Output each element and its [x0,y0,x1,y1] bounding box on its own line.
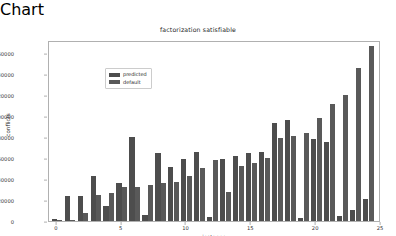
x-tick-mark [185,222,186,225]
bar-predicted-12 [207,217,212,221]
x-tick-mark [250,222,251,225]
bar-predicted-17 [272,123,277,221]
bars-container [49,42,379,221]
bar-default-2 [83,213,88,221]
bar-default-13 [226,192,231,221]
bar-default-4 [109,193,114,221]
chart-legend: predicted default [105,68,152,89]
x-tick-label: 25 [377,225,384,231]
y-tick-mark [44,116,47,117]
y-tick-mark [44,95,47,96]
bar-predicted-2 [78,196,83,221]
legend-swatch-predicted [109,73,120,77]
legend-item-predicted: predicted [109,72,147,77]
y-tick-mark [44,53,47,54]
bar-default-16 [265,158,270,221]
x-tick-label: 20 [312,225,319,231]
x-tick-mark [315,222,316,225]
chart-title: factorization satisfiable [0,26,396,33]
y-tick-mark [44,180,47,181]
bar-default-14 [239,166,244,221]
figure-canvas: factorization satisfiable conflicts inst… [0,19,396,236]
bar-predicted-6 [129,137,134,221]
y-axis-label: conflicts [5,95,11,155]
legend-swatch-default [109,80,120,84]
bar-predicted-19 [298,218,303,221]
bar-default-20 [317,118,322,221]
bar-default-19 [304,133,309,221]
bar-predicted-5 [116,183,121,221]
bar-predicted-10 [181,159,186,221]
legend-label-predicted: predicted [123,72,147,77]
bar-predicted-9 [168,167,173,221]
bar-default-0 [57,220,62,221]
bar-default-9 [174,182,179,221]
bar-predicted-22 [337,216,342,221]
y-tick-mark [44,137,47,138]
bar-default-6 [135,187,140,221]
y-tick-label: 140000 [0,72,14,78]
y-tick-label: 100000 [0,114,14,120]
bar-predicted-11 [194,152,199,221]
bar-default-7 [148,185,153,221]
bar-default-22 [343,95,348,221]
bar-default-10 [187,176,192,221]
legend-item-default: default [109,80,147,85]
bar-default-17 [278,138,283,221]
bar-default-24 [369,46,374,221]
x-tick-mark [120,222,121,225]
bar-default-5 [122,187,127,221]
bar-predicted-3 [91,176,96,221]
x-tick-mark [380,222,381,225]
bar-predicted-13 [220,159,225,221]
bar-predicted-21 [324,142,329,221]
x-tick-mark [55,222,56,225]
bar-predicted-8 [155,153,160,221]
x-tick-label: 15 [247,225,254,231]
y-tick-label: 160000 [0,51,14,57]
bar-predicted-7 [142,215,147,221]
plot-axes: predicted default [48,41,380,222]
bar-default-21 [330,104,335,221]
bar-predicted-15 [246,153,251,221]
bar-predicted-23 [350,210,355,221]
y-tick-mark [44,222,47,223]
bar-predicted-20 [311,139,316,221]
x-tick-label: 5 [119,225,122,231]
bar-default-18 [291,136,296,221]
y-tick-mark [44,158,47,159]
y-tick-label: 20000 [0,198,14,204]
y-tick-label: 80000 [0,135,14,141]
bar-predicted-0 [52,219,57,221]
bar-default-8 [161,183,166,221]
bar-predicted-1 [65,196,70,221]
y-tick-label: 60000 [0,156,14,162]
y-tick-mark [44,74,47,75]
y-tick-label: 120000 [0,93,14,99]
x-tick-label: 0 [54,225,57,231]
y-tick-label: 0 [0,219,14,225]
y-tick-mark [44,201,47,202]
y-tick-label: 40000 [0,177,14,183]
bar-predicted-16 [259,152,264,221]
bar-default-15 [252,163,257,221]
x-axis-label: instance [48,234,380,236]
bar-predicted-18 [285,120,290,221]
legend-label-default: default [123,80,141,85]
bar-default-23 [356,68,361,221]
bar-predicted-24 [363,199,368,221]
bar-default-11 [200,168,205,221]
bar-default-12 [213,160,218,221]
x-tick-label: 10 [182,225,189,231]
bar-default-3 [96,195,101,221]
bar-predicted-4 [103,206,108,221]
bar-predicted-14 [233,156,238,221]
bar-default-1 [70,220,75,221]
